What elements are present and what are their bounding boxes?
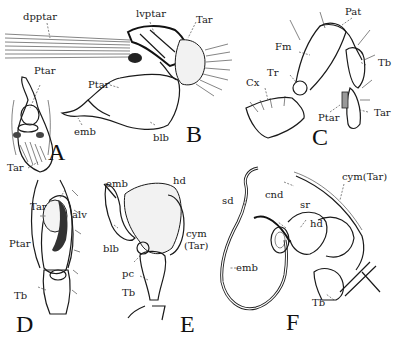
label-f-emb: emb [236, 263, 258, 273]
label-b-lvptar: lvptar [136, 9, 166, 19]
label-f-cnd: cnd [265, 190, 283, 200]
panel-letter-b: B [186, 122, 202, 146]
label-e-pc: pc [122, 269, 134, 279]
label-b-dpptar: dpptar [23, 12, 57, 22]
label-a-tar: Tar [7, 163, 24, 173]
label-c-fm: Fm [275, 42, 291, 52]
label-d-tb: Tb [14, 291, 27, 301]
label-d-ptar: Ptar [9, 239, 31, 249]
label-b-emb: emb [74, 127, 96, 137]
label-f-hd: hd [310, 219, 323, 229]
label-f-sd: sd [222, 196, 234, 206]
figure-drawings [0, 0, 406, 340]
label-c-tb: Tb [378, 58, 391, 68]
label-e-tb: Tb [122, 288, 135, 298]
label-c-tar: Tar [374, 108, 391, 118]
label-c-cx: Cx [246, 78, 259, 88]
label-e-cym: cym [186, 229, 207, 239]
panel-letter-c: C [312, 125, 328, 149]
label-e-blb: blb [103, 244, 119, 254]
label-c-pat: Pat [345, 7, 361, 17]
panel-letter-d: D [16, 312, 33, 336]
label-e-tar: (Tar) [184, 241, 208, 251]
label-f-sr: sr [300, 200, 310, 210]
label-e-hd: hd [173, 176, 186, 186]
panel-letter-e: E [180, 312, 195, 336]
panel-letter-a: A [48, 140, 65, 164]
label-f-tb: Tb [312, 298, 325, 308]
panel-a-drawing [12, 77, 53, 172]
label-c-tr: Tr [267, 68, 278, 78]
panel-c-drawing [246, 12, 375, 138]
label-c-ptar: Ptar [318, 113, 340, 123]
label-e-emb: emb [106, 179, 128, 189]
label-d-alv: alv [72, 210, 87, 220]
anatomical-figure: Ptar Tar A dpptar lvptar Tar Ptar emb bl… [0, 0, 406, 340]
label-b-blb: blb [153, 133, 169, 143]
label-d-tar: Tar [30, 202, 47, 212]
label-a-ptar: Ptar [34, 66, 56, 76]
label-b-tar: Tar [196, 15, 213, 25]
label-b-ptar: Ptar [88, 80, 110, 90]
panel-f-drawing [222, 168, 380, 309]
panel-letter-f: F [286, 310, 299, 334]
label-f-cym-tar: cym(Tar) [342, 172, 387, 182]
